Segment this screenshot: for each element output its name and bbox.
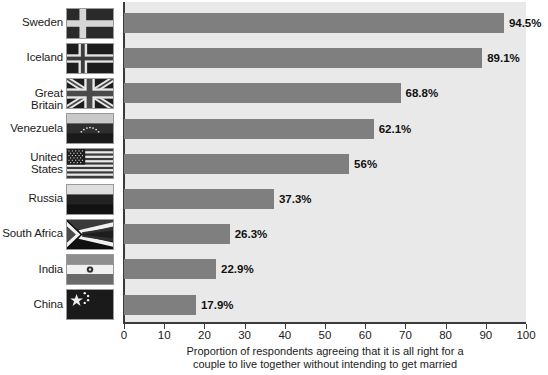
x-tick-label: 0 <box>104 329 144 341</box>
country-label-russia: Russia <box>0 192 63 205</box>
country-label-united-states: UnitedStates <box>0 151 63 176</box>
country-label-south-africa: South Africa <box>0 227 63 240</box>
flag-great-britain-icon <box>66 78 114 109</box>
table-row: Iceland 89.1% <box>0 35 548 70</box>
country-label-sweden: Sweden <box>0 16 63 29</box>
country-label-line: India <box>0 263 63 276</box>
x-tick-label: 20 <box>184 329 224 341</box>
flag-russia-icon <box>66 184 114 215</box>
x-tick-label: 40 <box>265 329 305 341</box>
table-row: Great Britain 68.8% <box>0 70 548 105</box>
country-label-venezuela: Venezuela <box>0 122 63 135</box>
country-label-line: China <box>0 298 63 311</box>
bar <box>124 83 401 103</box>
x-tick-label: 70 <box>385 329 425 341</box>
country-label-iceland: Iceland <box>0 51 63 64</box>
flag-sweden-icon <box>66 8 114 39</box>
flag-venezuela-icon <box>66 113 114 144</box>
bar-value-label: 62.1% <box>379 119 412 139</box>
bar-value-label: 37.3% <box>279 189 312 209</box>
bar <box>124 154 349 174</box>
bar-value-label: 17.9% <box>201 295 234 315</box>
country-label-line: States <box>0 163 63 176</box>
bar <box>124 48 482 68</box>
bar <box>124 13 504 33</box>
country-label-china: China <box>0 298 63 311</box>
country-label-line: Venezuela <box>0 122 63 135</box>
x-axis-title: Proportion of respondents agreeing that … <box>124 345 526 371</box>
x-tick-label: 30 <box>225 329 265 341</box>
flag-iceland-icon <box>66 43 114 74</box>
country-label-line: South Africa <box>0 227 63 240</box>
table-row: UnitedStates <box>0 141 548 176</box>
bar-value-label: 94.5% <box>509 13 542 33</box>
bar <box>124 295 196 315</box>
bar <box>124 259 216 279</box>
x-tick-label: 50 <box>305 329 345 341</box>
table-row: India 22.9% <box>0 246 548 281</box>
country-label-india: India <box>0 263 63 276</box>
bar-value-label: 56% <box>354 154 377 174</box>
x-axis-title-line2: couple to live together without intendin… <box>124 358 526 371</box>
country-label-line: United <box>0 151 63 164</box>
bar-value-label: 26.3% <box>235 224 268 244</box>
bar-value-label: 89.1% <box>487 48 520 68</box>
flag-united-states-icon <box>66 148 114 179</box>
bar-chart: Sweden 94.5%Iceland 89.1%Great Britain <box>0 0 548 375</box>
x-tick-label: 80 <box>426 329 466 341</box>
x-tick-label: 100 <box>506 329 546 341</box>
bar <box>124 119 374 139</box>
table-row: Venezuela 62.1% <box>0 106 548 141</box>
country-label-line: Russia <box>0 192 63 205</box>
x-tick-label: 60 <box>345 329 385 341</box>
x-axis-title-line1: Proportion of respondents agreeing that … <box>124 345 526 358</box>
x-tick-label: 90 <box>466 329 506 341</box>
bar-value-label: 68.8% <box>406 83 439 103</box>
flag-china-icon <box>66 289 114 320</box>
bar-value-label: 22.9% <box>221 259 254 279</box>
country-label-line: Sweden <box>0 16 63 29</box>
x-tick-label: 10 <box>144 329 184 341</box>
table-row: South Africa 26.3% <box>0 211 548 246</box>
bar <box>124 189 274 209</box>
country-label-line: Iceland <box>0 51 63 64</box>
bar <box>124 224 230 244</box>
table-row: China 17.9% <box>0 282 548 317</box>
flag-india-icon <box>66 254 114 285</box>
table-row: Russia 37.3% <box>0 176 548 211</box>
flag-south-africa-icon <box>66 219 114 250</box>
table-row: Sweden 94.5% <box>0 0 548 35</box>
